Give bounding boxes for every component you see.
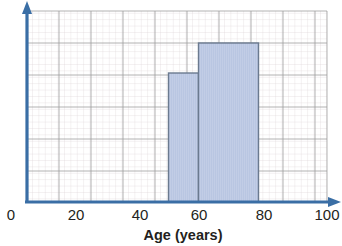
x-tick-label-40: 40 [132, 206, 149, 223]
y-axis-arrowhead [22, 1, 32, 14]
x-tick-label-60: 60 [191, 206, 208, 223]
x-tick-label-0: 0 [7, 206, 15, 223]
x-axis-title: Age (years) [144, 227, 223, 243]
x-tick-label-20: 20 [68, 206, 85, 223]
bar-60-80 [199, 43, 259, 202]
bar-50-60 [169, 73, 199, 202]
histogram-chart: 0 20 40 60 80 100 Age (years) [0, 0, 342, 246]
x-tick-label-100: 100 [314, 206, 339, 223]
chart-canvas: 0 20 40 60 80 100 Age (years) [0, 0, 342, 246]
x-tick-labels: 0 20 40 60 80 100 [7, 206, 340, 223]
x-tick-label-80: 80 [256, 206, 273, 223]
